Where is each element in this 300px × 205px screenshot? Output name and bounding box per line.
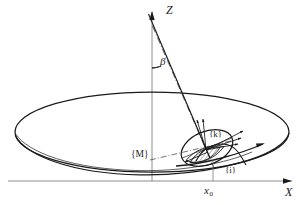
angle-label-beta: β — [160, 56, 165, 67]
frame-label-i: {i} — [225, 166, 236, 175]
axis-label-z: Z — [166, 4, 173, 16]
axis-label-x: X — [285, 186, 292, 198]
frame-label-m: {M} — [131, 150, 149, 160]
frame-label-k: {k} — [209, 130, 222, 139]
horizontal-x-axis — [8, 178, 292, 184]
position-label-x0-subscript: 0 — [209, 190, 213, 198]
diagram-svg — [0, 0, 300, 205]
position-label-x0: x0 — [204, 185, 212, 196]
figure-canvas: Z X β {M} {k} {i} x0 — [0, 0, 300, 205]
vertical-z-axis — [149, 11, 154, 181]
